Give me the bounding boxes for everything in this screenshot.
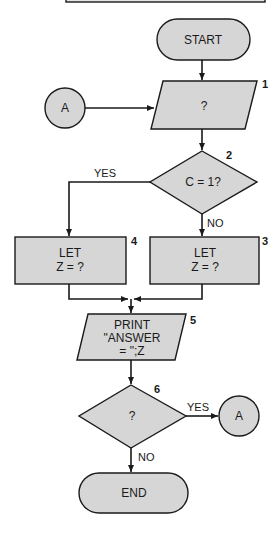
- step6-number: 6: [154, 383, 160, 395]
- step5-line3: = ";Z: [119, 344, 144, 358]
- step6-yes-label: YES: [187, 401, 209, 413]
- flowchart: START A ? 1 C = 1? 2 YES NO LET Z = ? 4 …: [0, 0, 280, 539]
- end-terminal: END: [79, 473, 188, 513]
- step3-number: 3: [262, 235, 268, 247]
- step3-line1: LET: [194, 246, 217, 260]
- step4-line1: LET: [59, 246, 82, 260]
- step3-process: LET Z = ? 3: [150, 235, 268, 284]
- step2-yes-label: YES: [94, 167, 116, 179]
- step6-decision: ? 6: [79, 383, 186, 448]
- step5-number: 5: [190, 314, 196, 326]
- arrow-step3-to-merge: [134, 284, 202, 299]
- connector-a-in: A: [45, 88, 85, 128]
- top-partial-box: [66, 0, 265, 2]
- step2-decision: C = 1? 2: [150, 149, 257, 214]
- step2-label: C = 1?: [185, 175, 221, 189]
- step2-no-label: NO: [207, 217, 224, 229]
- step4-line2: Z = ?: [56, 260, 84, 274]
- arrow-step4-to-merge: [69, 284, 128, 299]
- connector-a-out-label: A: [235, 409, 243, 423]
- step5-line1: PRINT: [114, 318, 151, 332]
- step1-number: 1: [262, 78, 268, 90]
- step1-label: ?: [201, 99, 208, 113]
- step6-label: ?: [129, 409, 136, 423]
- connector-a-in-label: A: [61, 101, 69, 115]
- start-label: START: [184, 33, 223, 47]
- connector-a-out: A: [219, 396, 259, 436]
- step6-no-label: NO: [138, 451, 155, 463]
- step4-process: LET Z = ? 4: [15, 235, 138, 284]
- step5-output: PRINT "ANSWER = ";Z 5: [77, 314, 196, 360]
- arrow-step2-yes: [69, 182, 150, 236]
- step2-number: 2: [226, 149, 232, 161]
- start-terminal: START: [157, 19, 250, 60]
- step1-input: ? 1: [151, 78, 268, 129]
- step3-line2: Z = ?: [191, 260, 219, 274]
- step5-line2: "ANSWER: [104, 331, 161, 345]
- end-label: END: [121, 486, 147, 500]
- step4-number: 4: [131, 235, 138, 247]
